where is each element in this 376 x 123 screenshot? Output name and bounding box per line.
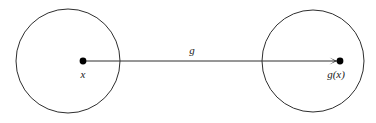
function-mapping-diagram: x g g(x) [0, 0, 376, 123]
mapping-function-label: g [189, 44, 195, 56]
source-point-dot [80, 58, 87, 65]
target-point-dot [337, 58, 344, 65]
target-point-label: g(x) [327, 68, 345, 81]
source-point-label: x [80, 68, 86, 80]
diagram-canvas: x g g(x) [0, 0, 376, 123]
